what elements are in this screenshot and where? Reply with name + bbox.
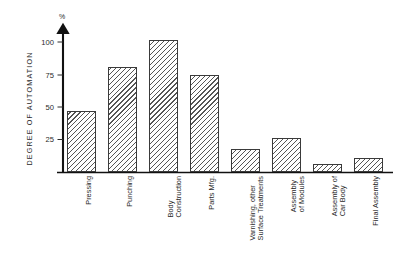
bar-varnishing <box>231 149 260 172</box>
bar-assembly-of-modules <box>272 138 301 172</box>
x-label-line1: Punching <box>125 176 134 207</box>
x-label-body-construction: Body Construction <box>167 176 184 218</box>
x-label-varnishing: Varnishing, other Surface Treatments <box>249 176 266 241</box>
plot-area <box>63 22 393 172</box>
x-label-line1: Varnishing, other <box>248 185 257 240</box>
x-label-line1: Assembly <box>289 180 298 212</box>
bar-body-construction <box>149 40 178 172</box>
x-label-assembly-of-modules: Assembly of Modules <box>290 176 307 212</box>
x-label-final-assembly: Final Assembly <box>372 176 380 226</box>
x-label-line1: Body <box>166 201 175 218</box>
x-label-line1: Final Assembly <box>371 176 380 226</box>
x-label-line2: Car Body <box>339 176 347 216</box>
x-label-line1: Pressing <box>84 176 93 205</box>
x-label-line1: Parts Mfg. <box>207 176 216 210</box>
x-label-pressing: Pressing <box>85 176 93 205</box>
y-tick-label-25: 25 <box>28 135 54 144</box>
x-label-line2: Construction <box>175 176 183 218</box>
bar-parts-mfg <box>190 75 219 172</box>
y-tick-label-50: 50 <box>28 103 54 112</box>
y-tick-label-100: 100 <box>28 38 54 47</box>
bar-pressing <box>67 111 96 172</box>
bar-assembly-of-car-body <box>313 164 342 172</box>
y-tick-label-75: 75 <box>28 71 54 80</box>
bar-punching <box>108 67 137 172</box>
x-label-line1: Assembly of <box>330 176 339 216</box>
x-label-line2: Surface Treatments <box>257 176 265 241</box>
x-label-assembly-of-car-body: Assembly of Car Body <box>331 176 348 216</box>
x-axis-category-labels: Pressing Punching Body Construction Part… <box>63 176 399 272</box>
automation-degree-bar-chart: DEGREE OF AUTOMATION % 100 75 50 25 <box>0 0 399 273</box>
x-label-parts-mfg: Parts Mfg. <box>208 176 216 210</box>
x-label-line2: of Modules <box>298 176 306 212</box>
bar-final-assembly <box>354 158 383 172</box>
x-label-punching: Punching <box>126 176 134 207</box>
